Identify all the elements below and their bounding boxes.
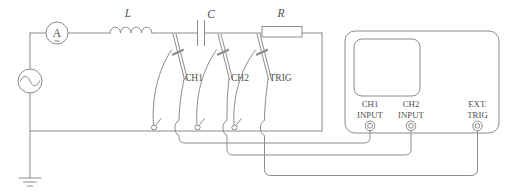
probe-trig-clip-jaw (236, 119, 242, 126)
ext-trig-label-line1: EXT. (468, 99, 487, 109)
probe-trig-label: TRIG (270, 73, 292, 83)
resistor-box (262, 27, 302, 38)
ch2-bnc-connector-inner (409, 123, 414, 128)
probe-ch1-cable (175, 79, 370, 143)
ext-trig-bnc-connector-inner (475, 123, 480, 128)
oscilloscope: CH1 INPUT CH2 INPUT EXT. TRIG (345, 31, 499, 133)
ch1-input-label-line2: INPUT (357, 110, 384, 120)
capacitor-label: C (207, 8, 215, 20)
ac-source (18, 69, 42, 93)
ground-icon (19, 178, 41, 186)
oscilloscope-screen (354, 39, 420, 96)
probe-ch1-ground-lead (153, 50, 171, 125)
capacitor-plates-icon (198, 21, 205, 46)
resistor: R (262, 7, 302, 38)
circuit-diagram: A ~ L C R CH1 INPUT CH2 INPUT EXT (0, 0, 505, 196)
ammeter-wave-icon: ~ (54, 35, 60, 46)
probe-trig-ground-clip-icon (232, 125, 237, 130)
ch2-input-label-line1: CH2 (403, 99, 420, 109)
wires (30, 33, 322, 178)
probe-ch1-clip-jaw (156, 119, 162, 126)
capacitor: C (198, 8, 216, 46)
inductor: L (110, 7, 152, 33)
probe-ch1-ground-clip-icon (151, 125, 156, 130)
ch1-input-label-line1: CH1 (362, 99, 379, 109)
probe-trig-ground-lead (234, 50, 256, 125)
inductor-label: L (124, 7, 131, 19)
probe-ch2-ground-clip-icon (195, 125, 200, 130)
ammeter: A ~ (46, 22, 68, 46)
probe-ch2-ground-lead (197, 50, 217, 125)
resistor-label: R (276, 7, 284, 19)
schematic-svg: A ~ L C R CH1 INPUT CH2 INPUT EXT (0, 0, 505, 196)
probe-ch2-clip-jaw (199, 119, 205, 126)
inductor-coil-icon (110, 27, 152, 33)
ext-trig-label-line2: TRIG (467, 110, 488, 120)
ch1-bnc-connector-inner (368, 123, 373, 128)
probe-ch1-label: CH1 (185, 73, 203, 83)
ch2-input-label-line2: INPUT (398, 110, 425, 120)
